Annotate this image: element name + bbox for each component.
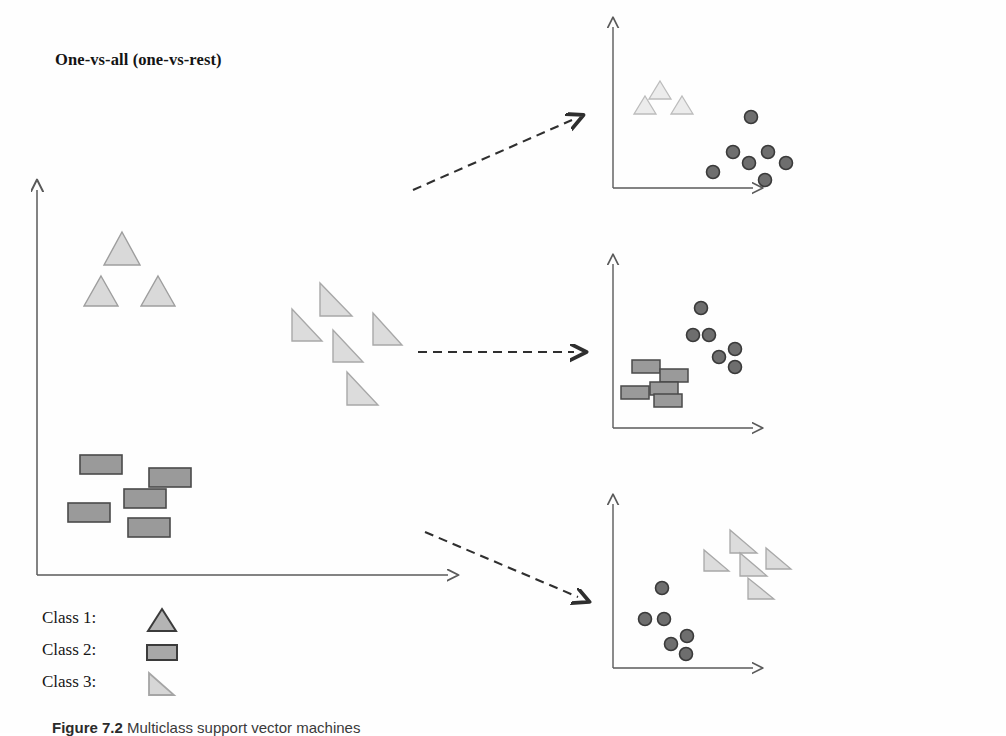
subplot-class2-marker (654, 394, 682, 407)
rest-marker (695, 302, 708, 315)
subplot-class2-marker (632, 360, 660, 373)
rest-marker (713, 351, 726, 364)
subplot-class2-marker (650, 382, 678, 395)
rest-marker (703, 329, 716, 342)
subplot-class1-marker (649, 81, 671, 99)
class1-marker (104, 232, 140, 265)
class3-marker (320, 283, 352, 316)
class2-marker (128, 518, 170, 537)
subplot-class2-marker (660, 369, 688, 382)
class2-marker (68, 503, 110, 522)
rest-marker (680, 648, 693, 661)
legend-item-class1: Class 1: (42, 606, 272, 638)
subplot-bottom (613, 504, 791, 668)
rest-marker (780, 157, 793, 170)
rest-marker (729, 361, 742, 374)
class1-marker (141, 276, 175, 306)
class3-marker (292, 309, 322, 341)
main-plot-class2-group (68, 455, 191, 537)
rectangle-icon (142, 638, 182, 666)
arrow-to-bottom-subplot (425, 532, 578, 597)
subplot-class3-marker (730, 530, 757, 553)
legend-item-label: Class 2: (42, 640, 96, 660)
subplot-top (613, 27, 793, 188)
figure-caption: Figure 7.2 Multiclass support vector mac… (52, 719, 360, 736)
subplot-class3-marker (766, 548, 791, 569)
class2-marker (124, 489, 166, 508)
class1-marker (84, 276, 118, 306)
rest-marker (656, 582, 669, 595)
arrow-to-top-subplot (413, 120, 572, 190)
legend-item-class3: Class 3: (42, 670, 272, 702)
rest-marker (687, 329, 700, 342)
legend-item-label: Class 1: (42, 608, 96, 628)
legend-item-class2: Class 2: (42, 638, 272, 670)
class3-marker (347, 372, 378, 405)
rest-marker (658, 613, 671, 626)
rest-marker (727, 146, 740, 159)
class3-marker (333, 330, 363, 362)
subplot-middle (613, 264, 753, 428)
connector-arrows (413, 120, 578, 597)
subplot-class3-marker (740, 553, 767, 576)
rest-marker (665, 638, 678, 651)
rest-marker (743, 157, 756, 170)
rest-marker (639, 613, 652, 626)
rest-marker (745, 111, 758, 124)
subplot-class1-marker (671, 96, 693, 114)
rest-marker (707, 166, 720, 179)
legend: Class 1: Class 2: Class 3: (42, 606, 272, 702)
triangle-up-icon (142, 606, 182, 634)
class2-marker (149, 468, 191, 487)
class3-marker (373, 313, 402, 345)
main-plot-class3-group (292, 283, 402, 405)
class2-marker (80, 455, 122, 474)
triangle-right-icon (142, 670, 182, 698)
rest-marker (762, 146, 775, 159)
rest-marker (681, 630, 694, 643)
main-plot-class1-group (84, 232, 175, 306)
legend-item-label: Class 3: (42, 672, 96, 692)
subplot-class2-marker (621, 386, 649, 399)
subplot-class3-marker (748, 578, 774, 599)
subplot-class3-marker (704, 550, 729, 571)
rest-marker (729, 343, 742, 356)
caption-text: Multiclass support vector machines (127, 719, 360, 736)
caption-figure-number: Figure 7.2 (52, 719, 123, 736)
rest-marker (759, 174, 772, 187)
